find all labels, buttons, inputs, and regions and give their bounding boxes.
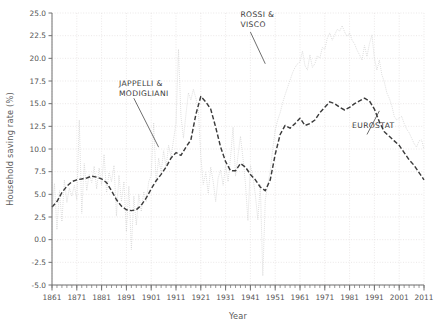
- chart-container: 25.022.520.017.515.012.510.07.55.02.50.0…: [0, 0, 434, 328]
- x-tick-label: 1921: [191, 293, 210, 302]
- y-axis-ticks: 25.022.520.017.515.012.510.07.55.02.50.0…: [30, 9, 52, 290]
- x-tick-label: 1941: [241, 293, 260, 302]
- y-tick-label: 12.5: [30, 122, 47, 131]
- x-tick-label: 2011: [415, 293, 434, 302]
- annotation-label: MODIGLIANI: [119, 89, 169, 98]
- y-tick-label: 25.0: [30, 9, 47, 18]
- x-tick-label: 1911: [167, 293, 186, 302]
- x-tick-label: 1961: [291, 293, 310, 302]
- x-tick-label: 1871: [67, 293, 86, 302]
- y-tick-label: -5.0: [32, 281, 47, 290]
- x-tick-label: 1881: [92, 293, 111, 302]
- y-tick-label: -2.5: [32, 258, 47, 267]
- x-tick-label: 1861: [43, 293, 62, 302]
- y-tick-label: 17.5: [30, 77, 47, 86]
- plot-background: [52, 13, 424, 285]
- annotation-label: ROSSI &: [240, 10, 274, 19]
- x-tick-label: 1891: [117, 293, 136, 302]
- x-tick-label: 1951: [266, 293, 285, 302]
- y-tick-label: 7.5: [34, 167, 46, 176]
- x-axis-ticks: 1861187118811891190119111921193119411951…: [43, 285, 434, 302]
- annotation-label: JAPPELLI &: [118, 79, 163, 88]
- y-tick-label: 20.0: [30, 54, 47, 63]
- y-tick-label: 10.0: [30, 145, 47, 154]
- y-tick-label: 15.0: [30, 99, 47, 108]
- saving-rate-line-chart: 25.022.520.017.515.012.510.07.55.02.50.0…: [0, 0, 434, 328]
- y-tick-label: 22.5: [30, 31, 47, 40]
- y-tick-label: 5.0: [34, 190, 46, 199]
- x-tick-label: 2001: [390, 293, 409, 302]
- x-axis-title: Year: [228, 311, 248, 321]
- annotation-label: VISCO: [240, 20, 265, 29]
- x-tick-label: 1971: [315, 293, 334, 302]
- x-tick-label: 1931: [216, 293, 235, 302]
- x-tick-label: 1901: [142, 293, 161, 302]
- y-tick-label: 0.0: [34, 235, 46, 244]
- y-tick-label: 2.5: [34, 213, 46, 222]
- y-axis-title: Household saving rate (%): [5, 92, 15, 206]
- x-tick-label: 1991: [365, 293, 384, 302]
- x-tick-label: 1981: [340, 293, 359, 302]
